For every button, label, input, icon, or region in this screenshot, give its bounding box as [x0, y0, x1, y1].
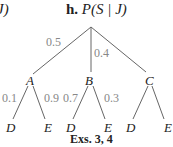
- leaf-a-e: E: [44, 121, 52, 134]
- leaf-c-d: D: [126, 121, 135, 134]
- prob-a-e: 0.9: [44, 92, 59, 104]
- prob-a-d: 0.1: [2, 92, 17, 104]
- prob-root-a: 0.5: [46, 36, 61, 48]
- leaf-c-e: E: [164, 121, 172, 134]
- edge-c-e: [152, 86, 164, 119]
- node-c: C: [145, 74, 154, 87]
- prob-b-e: 0.3: [104, 92, 119, 104]
- node-b: B: [85, 74, 93, 87]
- figure-caption: Exs. 3, 4: [70, 133, 113, 145]
- edge-root-a: [33, 27, 91, 74]
- edge-c-d: [133, 86, 148, 119]
- node-a: A: [26, 74, 34, 87]
- prob-b-d: 0.7: [63, 92, 78, 104]
- prob-root-b: 0.4: [94, 47, 109, 59]
- leaf-a-d: D: [6, 121, 15, 134]
